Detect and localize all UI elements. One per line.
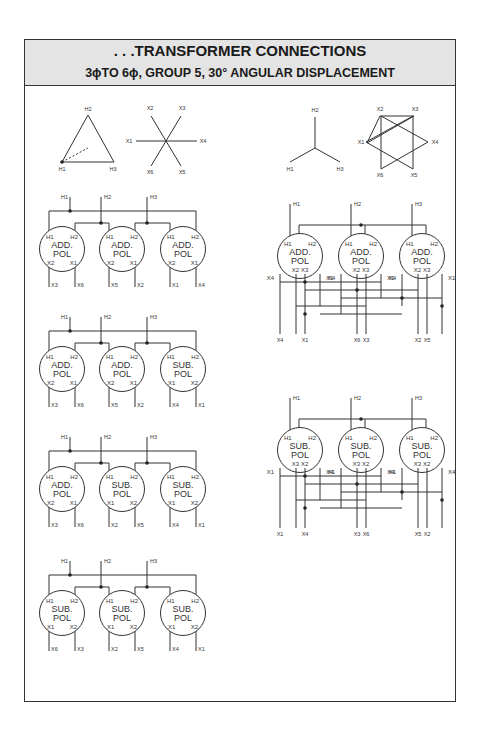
wire: [381, 116, 428, 169]
transformer-unit: H1H2SUB.POLX1X2X4X1: [161, 467, 206, 529]
terminal-label: X3: [353, 461, 361, 467]
output-terminal-label: X4: [277, 337, 284, 343]
terminal-label: X3: [292, 461, 300, 467]
wire: [62, 115, 114, 162]
wire: [315, 148, 340, 162]
left-connection-diagram-3: H1H2H3H1H2ADD.POLX2X1X3X6H1H2SUB.POLX1X2…: [40, 434, 206, 528]
junction-dot: [359, 417, 363, 421]
output-terminal-label: X6: [363, 531, 370, 537]
terminal-label: X3: [77, 646, 84, 652]
terminal-label: X3: [51, 282, 58, 288]
junction-dot: [145, 341, 149, 345]
terminal-label: H3: [150, 194, 157, 200]
terminal-label: X2: [137, 402, 144, 408]
junction-dot: [99, 341, 103, 345]
polarity-label: POL: [53, 369, 71, 379]
junction-dot: [355, 288, 359, 292]
polarity-label: POL: [53, 613, 71, 623]
terminal-label: X6: [147, 169, 154, 175]
terminal-label: H3: [336, 166, 343, 172]
terminal-label: X1: [389, 469, 397, 475]
terminal-label: X2: [423, 461, 431, 467]
terminal-label: X3: [414, 461, 422, 467]
terminal-label: X2: [111, 522, 118, 528]
terminal-label: X5: [111, 282, 118, 288]
terminal-label: X1: [70, 380, 78, 386]
terminal-label: X2: [191, 380, 199, 386]
terminal-label: X2: [111, 646, 118, 652]
terminal-label: H1: [61, 314, 68, 320]
wire: [135, 463, 170, 471]
terminal-label: H1: [293, 201, 300, 207]
terminal-label: X2: [107, 380, 115, 386]
terminal-label: X1: [168, 380, 176, 386]
terminal-label: X2: [70, 624, 78, 630]
output-terminal-label: X5: [415, 531, 422, 537]
terminal-label: X1: [267, 469, 275, 475]
output-terminal-label: X6: [354, 337, 361, 343]
transformer-unit: H1H2ADD.POLX2X1X3X6: [40, 347, 85, 409]
terminal-label: X2: [130, 500, 138, 506]
polarity-label: POL: [174, 369, 192, 379]
terminal-label: X1: [126, 138, 133, 144]
terminal-label: X4: [328, 275, 336, 281]
terminal-label: X4: [172, 646, 179, 652]
terminal-label: X1: [448, 275, 456, 281]
transformer-unit: H1H2SUB.POLX3X2X1X4: [328, 428, 395, 476]
terminal-label: X1: [168, 500, 176, 506]
output-terminal-label: X1: [277, 531, 284, 537]
output-terminal-label: X5: [424, 337, 431, 343]
terminal-label: X4: [200, 138, 207, 144]
terminal-label: X1: [191, 260, 199, 266]
terminal-label: X6: [77, 522, 84, 528]
polarity-label: POL: [53, 489, 71, 499]
terminal-label: X1: [198, 522, 205, 528]
terminal-label: X2: [137, 282, 144, 288]
polarity-label: POL: [174, 613, 192, 623]
wiring-diagrams: H2H1H3X1X2X3X4X5X6H2H1H3X1X2X3X4X5X6H1H2…: [0, 0, 482, 731]
terminal-label: X1: [172, 282, 179, 288]
terminal-label: X4: [448, 469, 456, 475]
terminal-label: X1: [107, 624, 115, 630]
transformer-unit: H1H2ADD.POLX2X3X4X1: [389, 234, 456, 282]
left-connection-diagram-1: H1H2H3H1H2ADD.POLX2X1X3X6H1H2ADD.POLX2X1…: [40, 194, 206, 288]
terminal-label: H1: [293, 395, 300, 401]
polarity-label: POL: [291, 450, 309, 460]
polarity-label: POL: [113, 369, 131, 379]
terminal-label: X1: [198, 402, 205, 408]
wire: [135, 343, 170, 351]
wire: [135, 223, 170, 231]
junction-dot: [359, 223, 363, 227]
right-connection-diagram-1: H1H2H3H1H2ADD.POLX2X3X4X1H1H2ADD.POLX2X3…: [267, 201, 456, 343]
junction-dot: [303, 474, 307, 478]
terminal-label: H3: [150, 558, 157, 564]
junction-dot: [68, 573, 72, 577]
wire: [367, 116, 414, 143]
polarity-label: POL: [413, 256, 431, 266]
transformer-unit: H1H2ADD.POLX2X3X4X1: [328, 234, 395, 282]
transformer-unit: H1H2SUB.POLX1X2X4X1: [161, 347, 206, 409]
transformer-unit: H1H2SUB.POLX1X2X4X1: [161, 591, 206, 653]
terminal-label: H3: [109, 166, 116, 172]
terminal-label: X3: [179, 105, 186, 111]
transformer-unit: H1H2ADD.POLX2X1X1X4: [161, 227, 206, 289]
junction-dot: [400, 296, 404, 300]
wire: [75, 587, 109, 595]
junction-dot: [60, 160, 64, 164]
terminal-label: X3: [362, 267, 370, 273]
left-connection-diagram-4: H1H2H3H1H2SUB.POLX1X2X6X3H1H2SUB.POLX1X2…: [40, 558, 206, 652]
junction-dot: [99, 221, 103, 225]
terminal-label: X6: [51, 646, 58, 652]
terminal-label: H3: [150, 314, 157, 320]
output-terminal-label: X4: [302, 531, 309, 537]
polarity-label: POL: [174, 489, 192, 499]
junction-dot: [303, 280, 307, 284]
terminal-label: X3: [412, 106, 419, 112]
junction-dot: [99, 461, 103, 465]
terminal-label: H1: [61, 434, 68, 440]
transformer-unit: H1H2SUB.POLX1X2X6X3: [40, 591, 85, 653]
terminal-label: X4: [389, 275, 397, 281]
terminal-label: H3: [415, 201, 422, 207]
terminal-label: X4: [267, 275, 275, 281]
terminal-label: X2: [191, 500, 199, 506]
